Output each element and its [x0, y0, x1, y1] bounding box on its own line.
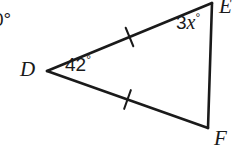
triangle-diagram-svg	[0, 0, 237, 157]
angle-d-value: 42	[65, 54, 86, 75]
vertex-label-e: E	[219, 0, 232, 17]
geometry-figure-canvas: 0° D E F 42° 3x°	[0, 0, 237, 157]
vertex-label-f: F	[214, 128, 227, 149]
angle-measure-e: 3x°	[176, 12, 200, 32]
vertex-label-d: D	[20, 59, 35, 80]
angle-measure-d: 42°	[65, 55, 91, 74]
triangle-side-ef	[208, 3, 212, 128]
partial-angle-label: 0°	[0, 10, 11, 29]
degree-symbol-icon: °	[86, 53, 91, 67]
angle-e-coefficient: 3	[176, 12, 187, 33]
degree-symbol-icon: °	[195, 11, 200, 25]
